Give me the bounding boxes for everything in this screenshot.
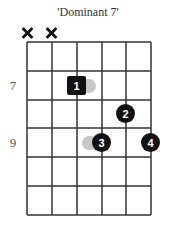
fretboard-grid	[0, 0, 170, 226]
finger-1-marker: 1	[67, 76, 86, 95]
fret-label-9: 9	[6, 135, 20, 151]
fret-label-7: 7	[6, 78, 20, 94]
finger-4-marker: 4	[141, 133, 160, 152]
finger-2-marker: 2	[116, 104, 135, 123]
finger-3-marker: 3	[92, 133, 111, 152]
